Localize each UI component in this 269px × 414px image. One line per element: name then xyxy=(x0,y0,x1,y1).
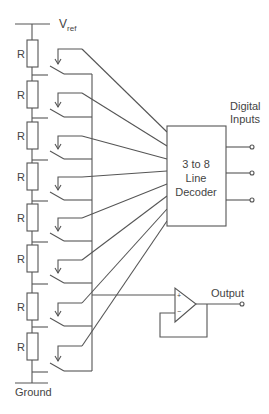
analog-switch-7 xyxy=(32,209,167,327)
resistor-5 xyxy=(27,204,38,231)
output-terminal xyxy=(240,302,244,306)
digital-inputs-label-line1: Digital xyxy=(230,100,261,112)
analog-switch-4 xyxy=(32,171,167,201)
resistor-1 xyxy=(27,40,38,67)
resistor-label-5: R xyxy=(17,212,25,224)
analog-switch-6 xyxy=(32,196,167,284)
dac-circuit-diagram: Vref R R R R R R R R Gr xyxy=(0,0,269,414)
ground-label: Ground xyxy=(15,386,52,398)
opamp-minus: − xyxy=(177,308,181,315)
analog-switch-1 xyxy=(32,49,167,132)
decoder-label-line1: 3 to 8 xyxy=(182,158,210,170)
digital-input-terminal-1 xyxy=(250,145,254,149)
resistor-7 xyxy=(27,293,38,320)
resistor-6 xyxy=(27,245,38,272)
analog-switch-2 xyxy=(32,93,167,146)
digital-input-terminal-2 xyxy=(250,171,254,175)
resistor-label-2: R xyxy=(17,89,25,101)
decoder-label-line2: Line xyxy=(186,172,207,184)
resistor-3 xyxy=(27,122,38,149)
digital-input-terminal-3 xyxy=(250,198,254,202)
output-label: Output xyxy=(211,287,244,299)
resistor-label-6: R xyxy=(17,253,25,265)
resistor-label-1: R xyxy=(17,48,25,60)
opamp-buffer: + − Output xyxy=(92,287,244,337)
decoder-label-line3: Decoder xyxy=(175,186,217,198)
resistor-label-7: R xyxy=(17,301,25,313)
resistor-2 xyxy=(27,81,38,108)
analog-switch-8 xyxy=(32,221,167,372)
analog-switch-3 xyxy=(32,136,167,160)
resistor-8 xyxy=(27,333,38,360)
digital-inputs-label-line2: Inputs xyxy=(230,113,260,125)
resistor-label-4: R xyxy=(17,171,25,183)
resistor-ladder: R R R R R R R R xyxy=(17,24,38,383)
resistor-4 xyxy=(27,163,38,190)
digital-inputs: Digital Inputs xyxy=(226,100,261,202)
resistor-label-3: R xyxy=(17,130,25,142)
vref-label: Vref xyxy=(59,17,77,33)
opamp-plus: + xyxy=(177,292,181,299)
line-decoder: 3 to 8 Line Decoder xyxy=(167,126,226,226)
resistor-label-8: R xyxy=(17,341,25,353)
switch-network xyxy=(32,49,167,372)
